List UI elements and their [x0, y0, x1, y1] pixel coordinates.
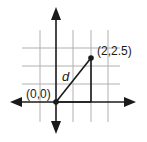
x-axis-right-arrow-icon [124, 97, 136, 107]
coordinate-plane-diagram: (0,0) (2,2.5) d [0, 0, 147, 142]
distance-label: d [62, 69, 70, 84]
x-axis-left-arrow-icon [10, 97, 22, 107]
origin-label: (0,0) [26, 87, 51, 101]
y-axis-down-arrow-icon [51, 121, 61, 134]
y-axis-up-arrow-icon [51, 7, 61, 20]
origin-point [53, 99, 59, 105]
point-2-2.5 [88, 55, 94, 61]
point-label: (2,2.5) [97, 44, 132, 58]
